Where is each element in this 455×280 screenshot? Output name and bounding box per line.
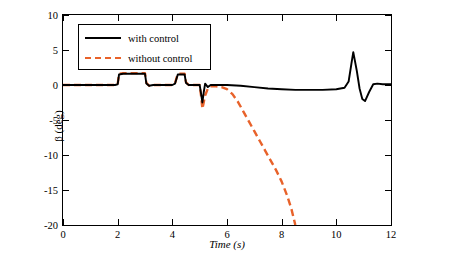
- x-tick-mark: [63, 219, 64, 225]
- y-tick-mark: [63, 50, 69, 51]
- legend-item-without-control: without control: [85, 50, 192, 66]
- y-axis-title: β (deg): [52, 66, 64, 186]
- legend-item-with-control: with control: [85, 30, 179, 46]
- x-tick-mark: [118, 219, 119, 225]
- x-tick-mark-top: [227, 15, 228, 21]
- y-tick-label: 5: [53, 45, 58, 56]
- y-axis-title-text: β (deg): [52, 110, 64, 142]
- legend-swatch-with-control: [85, 37, 121, 39]
- y-tick-label: 10: [48, 10, 59, 21]
- x-tick-mark: [172, 219, 173, 225]
- legend-swatch-without-control: [85, 57, 121, 59]
- legend: with control without control: [78, 24, 211, 70]
- y-tick-mark-right: [385, 155, 391, 156]
- x-axis-title-text: Time (s): [209, 238, 245, 250]
- x-tick-mark: [391, 219, 392, 225]
- y-tick-mark: [63, 190, 69, 191]
- x-tick-mark: [336, 219, 337, 225]
- x-tick-mark: [282, 219, 283, 225]
- y-tick-mark-right: [385, 225, 391, 226]
- x-tick-mark-top: [118, 15, 119, 21]
- x-tick-mark-top: [282, 15, 283, 21]
- x-axis-title: Time (s): [62, 238, 392, 250]
- x-tick-mark-top: [391, 15, 392, 21]
- legend-label-with-control: with control: [128, 33, 179, 44]
- legend-label-without-control: without control: [128, 53, 192, 64]
- y-tick-mark-right: [385, 190, 391, 191]
- chart-container: 1050-5-10-15-20024681012 β (deg) Time (s…: [0, 0, 455, 280]
- y-tick-label: -15: [44, 185, 58, 196]
- x-tick-mark-top: [63, 15, 64, 21]
- y-tick-label: -20: [44, 220, 58, 231]
- y-tick-mark-right: [385, 85, 391, 86]
- y-tick-mark: [63, 225, 69, 226]
- x-tick-mark-top: [336, 15, 337, 21]
- series-line-without-control: [63, 73, 295, 225]
- x-tick-mark: [227, 219, 228, 225]
- y-tick-mark-right: [385, 50, 391, 51]
- x-tick-mark-top: [172, 15, 173, 21]
- y-tick-mark-right: [385, 120, 391, 121]
